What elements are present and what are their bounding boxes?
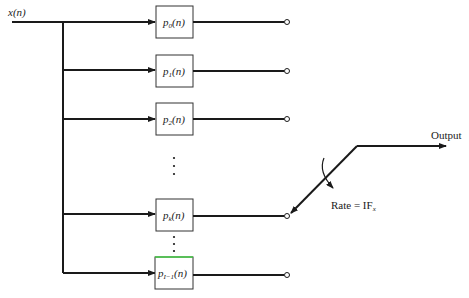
filter-box-p1: p1(n) bbox=[156, 55, 193, 87]
rate-label: Rate = IFx bbox=[331, 199, 377, 213]
ellipsis-dots-upper bbox=[173, 157, 175, 175]
input-label: x(n) bbox=[7, 6, 26, 19]
output-tap-last bbox=[193, 273, 290, 278]
svg-text:p0(n): p0(n) bbox=[162, 16, 185, 30]
svg-text:p1(n): p1(n) bbox=[162, 65, 185, 79]
output-tap-2 bbox=[193, 117, 290, 122]
svg-text:p2(n): p2(n) bbox=[162, 113, 185, 127]
filter-box-p2: p2(n) bbox=[156, 103, 193, 135]
polyphase-diagram: x(n) p0(n) p1(n) p2(n) pk(n) pI−1(n) bbox=[0, 0, 469, 298]
output-tap-0 bbox=[193, 20, 290, 25]
output-label: Output bbox=[431, 129, 462, 141]
filter-box-pI-1: pI−1(n) bbox=[155, 257, 193, 289]
svg-text:pk(n): pk(n) bbox=[162, 209, 185, 223]
filter-box-p0: p0(n) bbox=[156, 6, 193, 38]
output-tap-k bbox=[193, 214, 290, 219]
output-tap-1 bbox=[193, 69, 290, 74]
filter-box-pk: pk(n) bbox=[156, 199, 193, 231]
ellipsis-dots-lower bbox=[173, 236, 175, 252]
